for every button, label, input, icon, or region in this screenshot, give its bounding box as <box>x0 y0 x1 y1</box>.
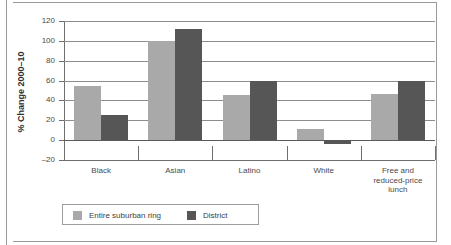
bar-1-0 <box>101 115 128 140</box>
y-tick-label-80: 80 <box>15 57 55 65</box>
bar-0-0 <box>74 86 101 141</box>
legend-swatch-icon-1 <box>187 211 196 220</box>
bar-1-3 <box>324 140 351 144</box>
y-tick-label-40: 40 <box>15 96 55 104</box>
y-tick-label-20: 20 <box>15 116 55 124</box>
x-axis-line <box>64 160 435 161</box>
y-tick-20 <box>59 120 64 121</box>
y-tick-label--20: –20 <box>15 156 55 164</box>
gridline-100 <box>64 41 435 42</box>
gridline-120 <box>64 21 435 22</box>
legend-item-0: Entire suburban ring <box>73 210 161 220</box>
bar-1-2 <box>250 81 277 141</box>
chart-screenshot: % Change 2000–10 120100806040200–20 Blac… <box>0 0 451 245</box>
bar-1-1 <box>175 29 202 140</box>
zero-line <box>64 140 435 141</box>
bar-0-2 <box>223 95 250 140</box>
x-tick-0 <box>64 146 65 160</box>
y-tick-60 <box>59 81 64 82</box>
y-tick-label-0: 0 <box>15 136 55 144</box>
y-tick-label-60: 60 <box>15 77 55 85</box>
x-category-label-2: Latino <box>212 166 286 176</box>
y-tick-80 <box>59 61 64 62</box>
legend-label-1: District <box>203 211 227 220</box>
x-category-label-0: Black <box>64 166 138 176</box>
y-tick-label-120: 120 <box>15 17 55 25</box>
x-tick-5 <box>435 146 436 160</box>
legend-item-1: District <box>187 210 227 220</box>
bar-0-1 <box>148 41 175 140</box>
plot-area: 120100806040200–20 <box>64 21 435 160</box>
bar-0-4 <box>371 94 398 140</box>
bar-0-3 <box>297 129 324 140</box>
y-tick--20 <box>59 160 64 161</box>
y-axis-title: % Change 2000–10 <box>14 32 28 152</box>
x-tick-1 <box>138 146 139 160</box>
x-category-label-3: White <box>287 166 361 176</box>
chart-legend: Entire suburban ring District <box>62 204 259 225</box>
legend-label-0: Entire suburban ring <box>89 211 161 220</box>
x-tick-3 <box>287 146 288 160</box>
x-tick-4 <box>361 146 362 160</box>
page-left-rule <box>6 0 7 245</box>
x-tick-2 <box>212 146 213 160</box>
y-tick-100 <box>59 41 64 42</box>
gridline-80 <box>64 61 435 62</box>
y-tick-0 <box>59 140 64 141</box>
bar-1-4 <box>398 81 425 141</box>
y-tick-label-100: 100 <box>15 37 55 45</box>
y-tick-120 <box>59 21 64 22</box>
x-category-label-4: Free and reduced-price lunch <box>361 166 435 195</box>
x-category-label-1: Asian <box>138 166 212 176</box>
legend-swatch-icon-0 <box>73 211 82 220</box>
y-axis-line <box>64 21 65 160</box>
y-tick-40 <box>59 100 64 101</box>
